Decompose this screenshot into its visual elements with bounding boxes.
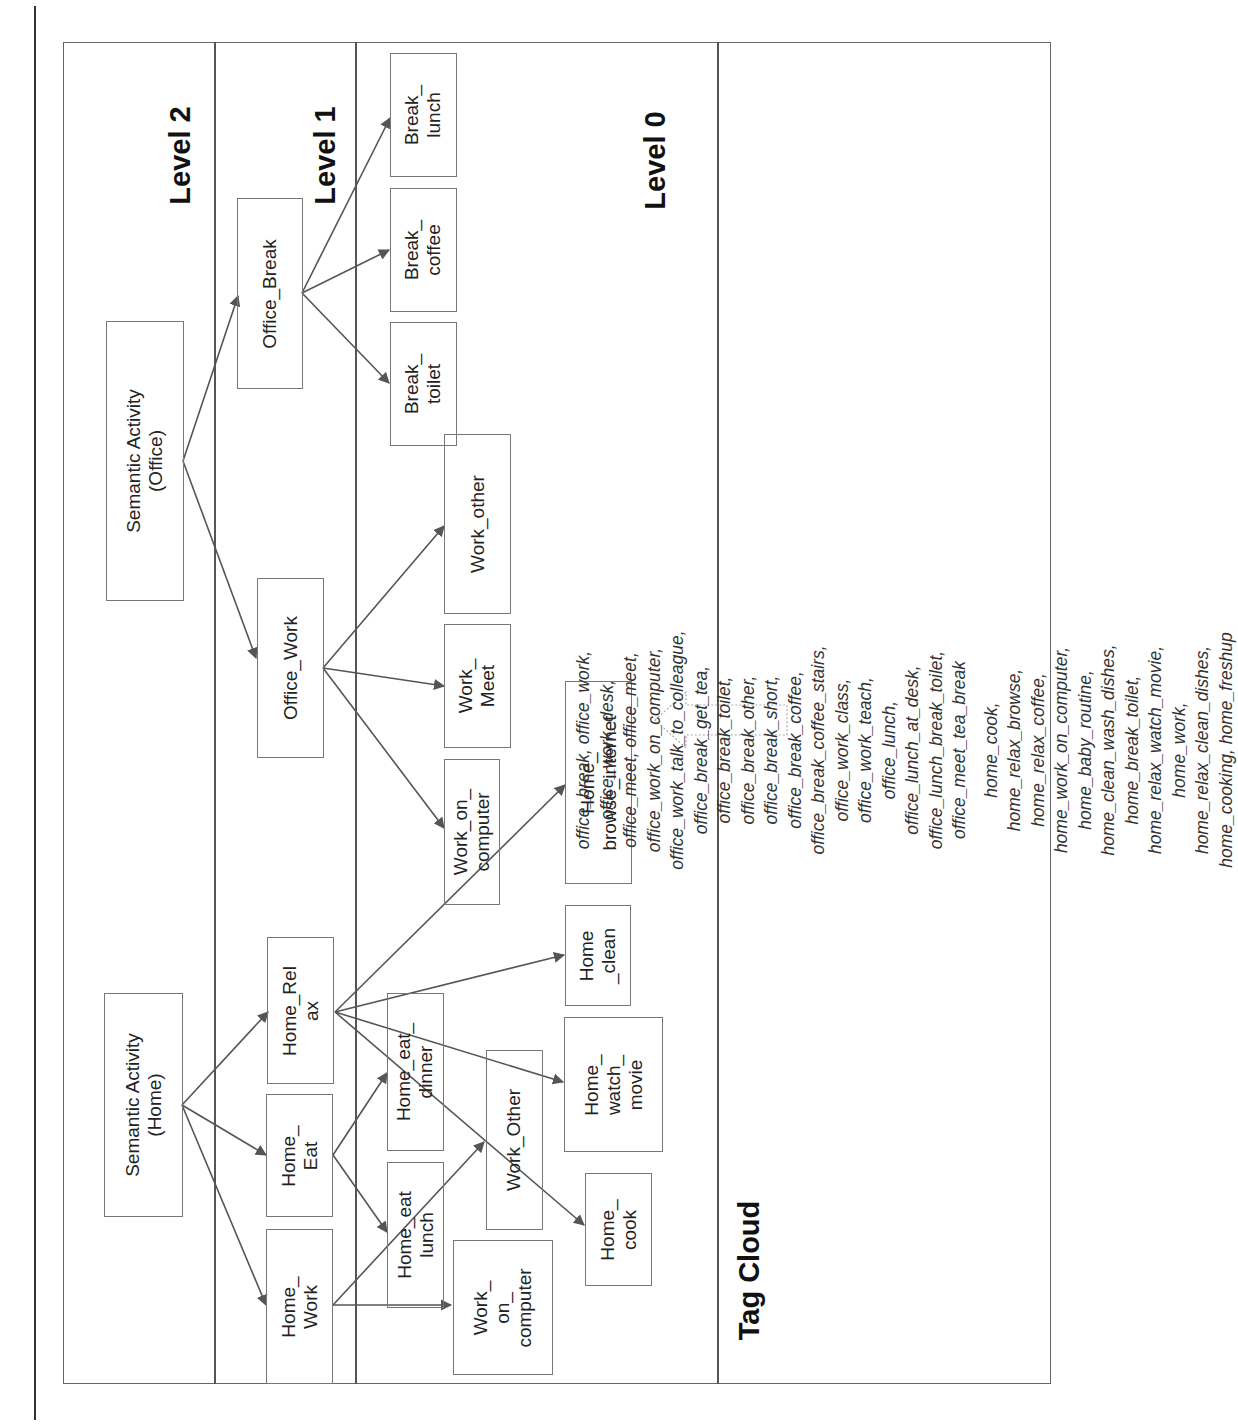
node-home-watch-movie[interactable]: Home_ watch_ movie <box>564 1017 663 1152</box>
node-office-break[interactable]: Office_Break <box>237 198 303 389</box>
node-work-other[interactable]: Work_other <box>444 434 511 614</box>
level2-level1-divider <box>214 42 216 1384</box>
tag-line: home_cook, home_relax_browse, home_relax… <box>980 630 1098 869</box>
level-0-label: Level 0 <box>625 85 685 235</box>
node-semantic-activity-home[interactable]: Semantic Activity (Home) <box>104 993 183 1217</box>
tag-cloud-title: Tag Cloud <box>720 1190 780 1350</box>
node-home-relax[interactable]: Home_Rel ax <box>267 937 334 1084</box>
tag-line: home_cooking, home_freshup <box>1215 630 1238 869</box>
node-home-eat-dinner[interactable]: Home_eat_ dinner <box>387 993 444 1151</box>
tag-line: home_clean_wash_dishes, home_break_toile… <box>1097 630 1215 869</box>
node-home-eat-lunch[interactable]: Home_eat lunch <box>387 1162 444 1308</box>
node-break-lunch[interactable]: Break_ lunch <box>390 53 457 177</box>
tag-line: office_work_talk_to_colleague, office_br… <box>666 630 784 869</box>
node-work-on-computer-office[interactable]: Work_on_ computer <box>444 759 500 905</box>
level1-level0-divider <box>355 42 357 1384</box>
node-home-eat[interactable]: Home_ Eat <box>266 1094 333 1217</box>
tag-line: office_break_coffee, office_break_coffee… <box>784 630 902 869</box>
node-home-cook[interactable]: Home_ cook <box>585 1173 652 1286</box>
tag-line: office_lunch_at_desk, office_lunch_break… <box>901 630 972 869</box>
tag-cloud-text: office_break, office_work, office_work_d… <box>805 220 1005 1280</box>
node-break-coffee[interactable]: Break_ coffee <box>390 188 457 312</box>
tag-line: office_break, office_work, office_work_d… <box>572 630 666 869</box>
level-1-label: Level 1 <box>295 80 355 230</box>
node-office-work[interactable]: Office_Work <box>257 578 324 758</box>
node-home-work[interactable]: Home_ Work <box>266 1229 333 1384</box>
page-margin-rule <box>34 6 36 1420</box>
node-break-toilet[interactable]: Break_ toilet <box>390 322 457 446</box>
node-work-on-computer-home[interactable]: Work_ on_ computer <box>453 1240 553 1375</box>
node-semantic-activity-office[interactable]: Semantic Activity (Office) <box>106 321 184 601</box>
node-work-meet[interactable]: Work_ Meet <box>444 624 511 748</box>
node-work-other-home[interactable]: Work_Other <box>486 1050 543 1230</box>
node-home-clean[interactable]: Home _clean <box>565 905 631 1006</box>
level-2-label: Level 2 <box>150 80 210 230</box>
